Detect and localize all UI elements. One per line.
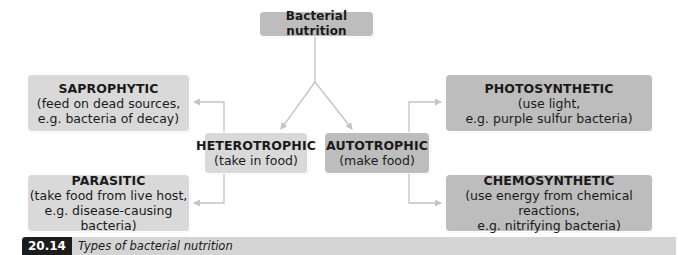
node-description: e.g. nitrifying bacteria) [477,218,621,233]
bacterial-nutrition-node: Bacterial nutrition [260,12,373,36]
photosynthetic-node: PHOTOSYNTHETIC (use light, e.g. purple s… [446,75,652,131]
node-description: (take food from live host, [30,188,188,203]
node-title: Bacterial nutrition [260,9,373,39]
arrow-to-autotrophic [315,82,352,129]
node-title: PARASITIC [72,173,146,188]
arrow-to-heterotrophic [281,82,315,129]
node-title: CHEMOSYNTHETIC [483,173,614,188]
node-description: (feed on dead sources, [37,96,180,111]
figure-number: 20.14 [22,237,72,255]
chemosynthetic-node: CHEMOSYNTHETIC (use energy from chemical… [446,175,652,231]
node-description: e.g. bacteria of decay) [38,111,179,126]
arrow-to-chemosynthetic [409,173,441,203]
node-title: PHOTOSYNTHETIC [484,81,613,96]
node-description: (use energy from chemical reactions, [446,188,652,218]
node-title: AUTOTROPHIC [326,138,428,153]
arrow-to-parasitic [194,173,224,203]
node-description: e.g. disease-causing bacteria) [28,203,189,233]
figure-caption-text: Types of bacterial nutrition [72,239,233,253]
autotrophic-node: AUTOTROPHIC (make food) [325,133,429,173]
node-description: e.g. purple sulfur bacteria) [465,111,632,126]
node-description: (take in food) [214,153,298,168]
node-description: (use light, [518,96,581,111]
node-title: HETEROTROPHIC [196,138,316,153]
node-title: SAPROPHYTIC [58,81,158,96]
parasitic-node: PARASITIC (take food from live host, e.g… [28,175,189,231]
saprophytic-node: SAPROPHYTIC (feed on dead sources, e.g. … [28,75,189,131]
figure-caption: 20.14 Types of bacterial nutrition [22,237,676,255]
arrow-to-saprophytic [194,102,224,133]
node-description: (make food) [339,153,415,168]
arrow-to-photosynthetic [409,102,441,133]
heterotrophic-node: HETEROTROPHIC (take in food) [205,133,307,173]
